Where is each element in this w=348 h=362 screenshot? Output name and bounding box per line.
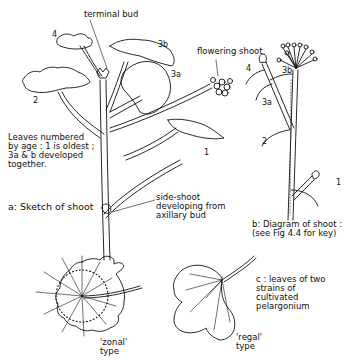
label-regal-type: 'regal' type	[236, 333, 262, 351]
leaf-age-note: Leaves numbered by age : 1 is oldest ; 3…	[8, 133, 94, 169]
diagram-leaf-3b: 3b	[282, 66, 292, 75]
diagram-leaf-1: 1	[336, 178, 341, 187]
caption-a: a: Sketch of shoot	[8, 202, 94, 212]
leaf-number-3a: 3a	[171, 70, 181, 79]
caption-c: c : leaves of two strains of cultivated …	[256, 275, 326, 311]
diagram-leaf-4: 4	[246, 64, 251, 73]
flower-head	[211, 78, 233, 97]
diagram-leaf-2: 2	[262, 137, 267, 146]
umbel	[277, 43, 317, 68]
label-flowering-shoot: flowering shoot	[197, 47, 263, 56]
leaf-number-4: 4	[52, 30, 57, 39]
leaf-number-3b: 3b	[158, 40, 168, 49]
diagram-leaf-3a: 3a	[262, 98, 272, 107]
leaf-number-2: 2	[33, 96, 38, 105]
leaf-number-1: 1	[204, 148, 209, 157]
label-terminal-bud: terminal bud	[84, 10, 138, 19]
caption-b: b: Diagram of shoot : (see Fig 4.4 for k…	[252, 220, 342, 238]
regal-leaf	[173, 256, 256, 340]
label-zonal-type: 'zonal' type	[100, 338, 127, 356]
zonal-leaf	[36, 256, 142, 336]
label-side-shoot: side-shoot developing from axillary bud	[156, 193, 225, 220]
